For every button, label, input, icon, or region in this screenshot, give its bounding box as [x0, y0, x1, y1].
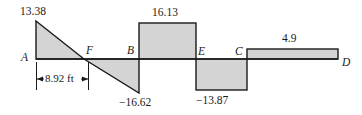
value-label-mid-peak: 16.13	[152, 7, 178, 19]
point-label-f: F	[86, 45, 93, 57]
point-label-c: C	[235, 46, 243, 58]
region-positive-ab	[36, 21, 84, 59]
point-label-e: E	[198, 46, 205, 58]
dimension-arrow-right-icon	[82, 77, 88, 82]
region-positive-be	[139, 23, 196, 59]
point-label-b: B	[127, 45, 134, 57]
region-negative-ec	[196, 59, 247, 90]
value-label-mid-valley: −13.87	[196, 95, 228, 107]
point-label-d: D	[342, 57, 350, 69]
value-label-left-peak: 13.38	[20, 6, 46, 18]
region-positive-cd	[247, 49, 338, 59]
dimension-label-8-92-ft: 8.92 ft	[45, 73, 74, 84]
point-label-a: A	[21, 52, 28, 64]
region-negative-fb	[84, 59, 139, 93]
dimension-arrow-left-icon	[37, 77, 43, 82]
shear-diagram-figure: 13.38 −16.62 16.13 −13.87 4.9 A F B E C …	[0, 0, 362, 115]
shear-diagram-svg	[0, 0, 362, 115]
value-label-left-valley: −16.62	[119, 97, 151, 109]
value-label-right-plateau: 4.9	[282, 33, 296, 45]
